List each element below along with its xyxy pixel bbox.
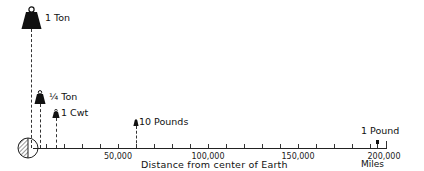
dashed-line-1-pound xyxy=(377,144,378,148)
axis-tick xyxy=(226,144,227,148)
axis-tick xyxy=(244,144,245,148)
dashed-line-quarter-ton xyxy=(40,104,41,148)
weight-icon-1-ton xyxy=(21,6,42,29)
axis-tick xyxy=(352,144,353,148)
weight-label-10-pounds: 10 Pounds xyxy=(139,116,188,127)
tick-label-50000: 50,000 xyxy=(104,152,132,161)
axis-tick xyxy=(82,144,83,148)
weight-label-1-cwt: 1 Cwt xyxy=(61,107,88,118)
units-label: Miles xyxy=(361,159,384,169)
axis-tick xyxy=(370,144,371,148)
dashed-line-10-pounds xyxy=(136,126,137,148)
axis-tick xyxy=(46,144,47,148)
axis-tick xyxy=(298,144,299,148)
axis-tick xyxy=(190,144,191,148)
axis-tick xyxy=(334,144,335,148)
axis-tick xyxy=(118,144,119,148)
dashed-line-1-ton xyxy=(31,29,32,148)
axis-tick xyxy=(172,144,173,148)
axis-tick xyxy=(64,144,65,148)
dashed-line-1-cwt xyxy=(56,118,57,148)
axis-tick xyxy=(280,144,281,148)
x-axis-line xyxy=(33,148,387,149)
axis-tick xyxy=(154,144,155,148)
axis-tick xyxy=(262,144,263,148)
axis-tick xyxy=(386,141,387,148)
x-axis-label: Distance from center of Earth xyxy=(141,159,288,170)
axis-tick xyxy=(100,144,101,148)
axis-tick xyxy=(316,144,317,148)
weight-label-1-ton: 1 Ton xyxy=(45,12,70,23)
weight-label-quarter-ton: ¼ Ton xyxy=(49,91,77,102)
axis-tick xyxy=(208,144,209,148)
weight-label-1-pound: 1 Pound xyxy=(361,125,399,136)
weight-icon-1-cwt xyxy=(52,109,60,118)
weight-icon-quarter-ton xyxy=(34,90,46,104)
